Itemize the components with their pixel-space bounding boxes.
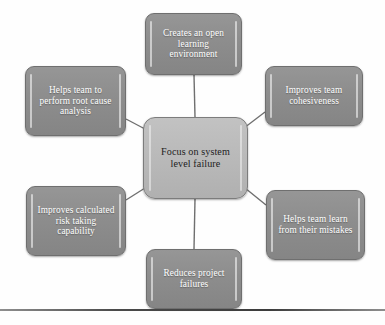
node-label: Reduces project failures xyxy=(147,268,241,290)
node-creates-open-learning-environment[interactable]: Creates an open learning environment xyxy=(145,13,242,75)
node-helps-team-perform-root-cause-analysis[interactable]: Helps team to perform root cause analysi… xyxy=(25,66,126,136)
node-label: Improves calculated risk taking capabili… xyxy=(27,205,125,238)
node-label: Improves team cohesiveness xyxy=(266,85,362,107)
center-node-label: Focus on system level failure xyxy=(144,146,247,170)
node-helps-team-learn-from-mistakes[interactable]: Helps team learn from their mistakes xyxy=(266,190,365,260)
node-reduces-project-failures[interactable]: Reduces project failures xyxy=(146,249,242,309)
node-center-focus-on-system-level-failure[interactable]: Focus on system level failure xyxy=(143,117,248,199)
connector-center-to-bottom-left xyxy=(126,188,145,200)
bottom-divider-rule xyxy=(0,309,385,311)
connector-center-to-top xyxy=(194,75,195,117)
node-improves-team-cohesiveness[interactable]: Improves team cohesiveness xyxy=(265,66,363,126)
diagram-canvas: Creates an open learning environment Imp… xyxy=(0,0,385,325)
node-label: Helps team learn from their mistakes xyxy=(267,214,364,236)
node-improves-calculated-risk-taking-capability[interactable]: Improves calculated risk taking capabili… xyxy=(26,186,126,256)
node-label: Helps team to perform root cause analysi… xyxy=(26,85,125,118)
connector-center-to-bottom xyxy=(194,199,195,249)
connector-center-to-bottom-right xyxy=(245,188,266,205)
node-label: Creates an open learning environment xyxy=(146,28,241,61)
